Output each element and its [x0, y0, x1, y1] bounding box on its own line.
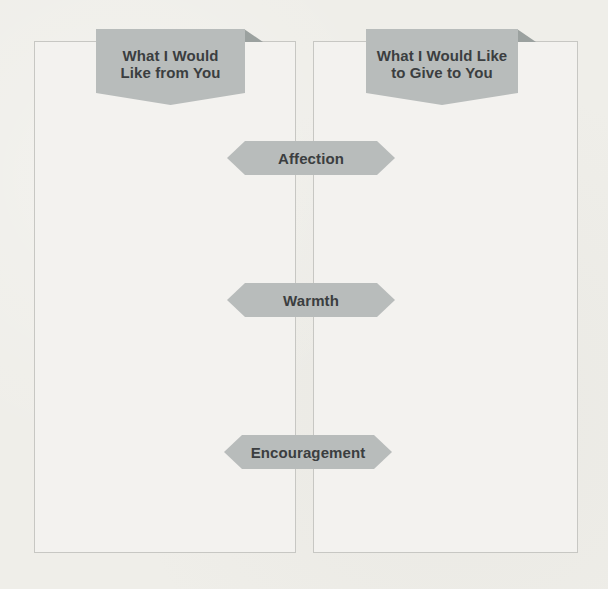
right-header-banner: What I Would Like to Give to You — [366, 29, 518, 105]
left-header-label: What I Would Like from You — [96, 29, 245, 93]
tag-encouragement: Encouragement — [224, 435, 392, 469]
tag-encouragement-label: Encouragement — [251, 444, 366, 461]
tag-warmth: Warmth — [227, 283, 395, 317]
left-header-banner: What I Would Like from You — [96, 29, 245, 105]
right-header-label: What I Would Like to Give to You — [366, 29, 518, 93]
worksheet-page: What I Would Like from You What I Would … — [0, 0, 608, 589]
tag-affection: Affection — [227, 141, 395, 175]
tag-affection-label: Affection — [278, 150, 344, 167]
tag-warmth-label: Warmth — [283, 292, 339, 309]
left-banner-fold — [244, 29, 263, 42]
